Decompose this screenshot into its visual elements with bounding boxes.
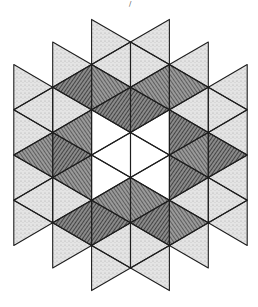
stray-mark: / <box>129 0 131 8</box>
hexagon-star-pattern <box>0 0 258 307</box>
